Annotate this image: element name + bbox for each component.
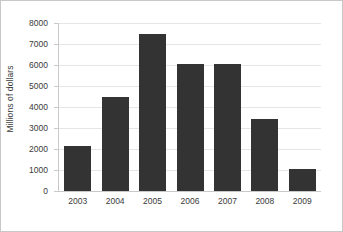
y-axis-tick-label: 4000 — [8, 103, 48, 112]
y-axis-tick — [54, 149, 58, 150]
gridline — [59, 191, 321, 192]
y-axis-tick — [54, 44, 58, 45]
plot-area — [59, 23, 321, 191]
y-axis-tick — [54, 191, 58, 192]
y-axis-tick — [54, 128, 58, 129]
gridline — [59, 44, 321, 45]
x-axis-tick-label: 2004 — [96, 197, 133, 206]
bar-2009 — [289, 169, 316, 191]
bar-2007 — [214, 64, 241, 191]
y-axis-tick-label: 7000 — [8, 40, 48, 49]
y-axis-tick-label: 1000 — [8, 166, 48, 175]
y-axis-tick-label: 0 — [8, 187, 48, 196]
bar-2005 — [139, 34, 166, 191]
y-axis-tick — [54, 170, 58, 171]
bar-2004 — [102, 97, 129, 191]
y-axis-tick — [54, 107, 58, 108]
x-axis-tick-label: 2003 — [59, 197, 96, 206]
y-axis-tick-label: 2000 — [8, 145, 48, 154]
y-axis-tick — [54, 23, 58, 24]
x-axis-tick-label: 2009 — [284, 197, 321, 206]
y-axis-tick-label: 6000 — [8, 61, 48, 70]
bar-2003 — [64, 146, 91, 191]
x-axis-tick-label: 2007 — [209, 197, 246, 206]
y-axis-tick-label: 5000 — [8, 82, 48, 91]
y-axis-title-label: Millions of dollars — [5, 65, 15, 132]
x-axis-tick-label: 2006 — [171, 197, 208, 206]
y-axis-tick-label: 8000 — [8, 19, 48, 28]
x-axis-tick-label: 2008 — [246, 197, 283, 206]
gridline — [59, 23, 321, 24]
bar-2006 — [177, 64, 204, 191]
x-axis-tick-label: 2005 — [134, 197, 171, 206]
y-axis-tick — [54, 86, 58, 87]
y-axis-tick-label: 3000 — [8, 124, 48, 133]
y-axis-tick — [54, 65, 58, 66]
bar-chart: Millions of dollars 01000200030004000500… — [0, 0, 343, 232]
bar-2008 — [251, 119, 278, 191]
